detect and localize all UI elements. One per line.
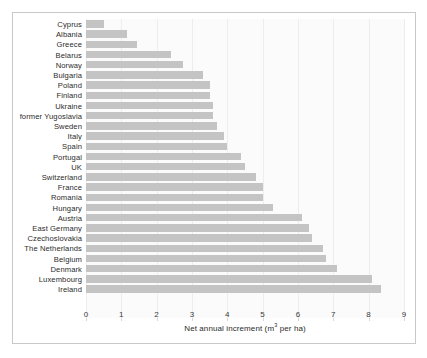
x-tick-label: 5: [260, 310, 265, 319]
x-tick-label: 1: [119, 310, 124, 319]
x-tick-label: 9: [402, 310, 407, 319]
plot-wrapper: CyprusAlbaniaGreeceBelarusNorwayBulgaria…: [0, 0, 427, 358]
x-axis-title-suffix: per ha): [277, 324, 305, 333]
x-tick-label: 4: [225, 310, 230, 319]
x-tick-label: 0: [84, 310, 89, 319]
x-tick-label: 8: [366, 310, 371, 319]
x-axis-title: Net annual increment (m3 per ha): [86, 324, 404, 333]
x-tick-label: 3: [190, 310, 195, 319]
x-tick-label: 6: [296, 310, 301, 319]
x-axis: 0123456789: [0, 0, 427, 358]
chart-figure: CyprusAlbaniaGreeceBelarusNorwayBulgaria…: [0, 0, 427, 358]
x-tick-label: 2: [154, 310, 159, 319]
x-tick-label: 7: [331, 310, 336, 319]
x-axis-title-text: Net annual increment (m: [184, 324, 274, 333]
